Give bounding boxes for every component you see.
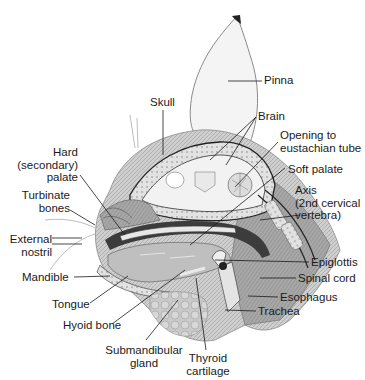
label-opening-eustachian: Opening to eustachian tube bbox=[280, 129, 361, 154]
label-axis: Axis (2nd cervical vertebra) bbox=[295, 184, 360, 222]
label-pinna: Pinna bbox=[264, 74, 293, 87]
label-tongue: Tongue bbox=[52, 298, 90, 311]
label-mandible: Mandible bbox=[22, 271, 69, 284]
label-soft-palate: Soft palate bbox=[288, 163, 343, 176]
label-hard-palate: Hard (secondary) palate bbox=[2, 146, 78, 184]
label-thyroid-cartilage: Thyroid cartilage bbox=[176, 352, 240, 377]
label-external-nostril: External nostril bbox=[2, 233, 52, 258]
label-brain: Brain bbox=[258, 110, 285, 123]
label-esophagus: Esophagus bbox=[280, 291, 338, 304]
label-turbinate-bones: Turbinate bones bbox=[2, 189, 70, 214]
label-hyoid-bone: Hyoid bone bbox=[63, 319, 121, 332]
label-trachea: Trachea bbox=[258, 305, 300, 318]
label-spinal-cord: Spinal cord bbox=[298, 272, 356, 285]
label-submandibular-gland: Submandibular gland bbox=[104, 344, 184, 369]
label-epiglottis: Epiglottis bbox=[311, 256, 358, 269]
pinna-illustration bbox=[190, 15, 257, 143]
label-skull: Skull bbox=[150, 96, 175, 109]
